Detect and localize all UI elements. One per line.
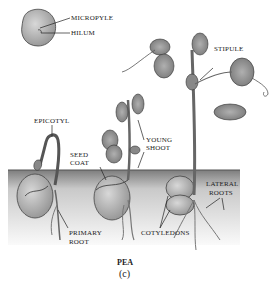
seed: [22, 9, 70, 46]
label-epicotyl: EPICOTYL: [34, 117, 69, 125]
label-hilum: HILUM: [71, 29, 95, 37]
label-seed-coat-line2: COAT: [70, 159, 89, 167]
label-lateral-roots-line2: ROOTS: [209, 189, 233, 197]
figure-title: PEA: [117, 258, 133, 267]
diagram-artwork: [0, 0, 278, 282]
label-micropyle: MICROPYLE: [71, 14, 113, 22]
panel-label: (c): [119, 268, 130, 279]
label-cotyledons: COTYLEDONS: [141, 229, 190, 237]
label-primary-root-line2: ROOT: [69, 238, 89, 246]
label-young-shoot-line1: YOUNG: [146, 136, 172, 144]
label-seed-coat-line1: SEED: [70, 151, 88, 159]
label-lateral-roots-line1: LATERAL: [206, 180, 239, 188]
label-young-shoot-line2: SHOOT: [146, 144, 170, 152]
label-primary-root-line1: PRIMARY: [69, 229, 102, 237]
pea-germination-diagram: MICROPYLE HILUM STIPULE EPICOTYL SEED CO…: [0, 0, 278, 282]
label-stipule: STIPULE: [214, 45, 243, 53]
